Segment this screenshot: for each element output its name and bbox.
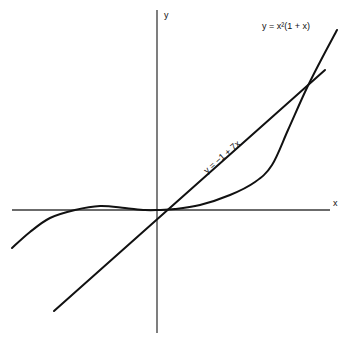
x-axis-label: x xyxy=(333,198,338,208)
chart-canvas: y x y = x²(1 + x) y = −1 + 7x xyxy=(0,0,353,345)
cubic-curve xyxy=(12,30,337,248)
linear-line xyxy=(54,70,325,311)
linear-line-label: y = −1 + 7x xyxy=(202,138,243,175)
y-axis-label: y xyxy=(164,10,169,20)
cubic-curve-label: y = x²(1 + x) xyxy=(262,21,310,31)
